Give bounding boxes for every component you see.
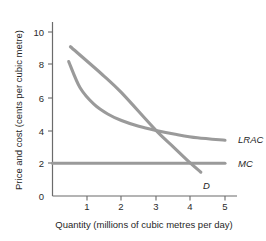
y-tick-label-2: 2 (39, 158, 44, 169)
chart-plot-area: 10 8 6 4 2 0 1 2 3 4 5 Quantity (million… (0, 0, 266, 241)
curve-label-lrac: LRAC (238, 134, 263, 145)
x-tick-label-2: 2 (118, 201, 123, 212)
y-tick-label-8: 8 (39, 59, 44, 70)
curve-lrac (69, 62, 225, 141)
chart-figure: 10 8 6 4 2 0 1 2 3 4 5 Quantity (million… (0, 0, 266, 241)
y-tick-label-10: 10 (33, 27, 44, 38)
curve-label-mc: MC (238, 158, 253, 169)
y-tick-label-6: 6 (39, 93, 44, 104)
x-tick-label-5: 5 (222, 201, 227, 212)
x-tick-label-4: 4 (187, 201, 192, 212)
x-tick-label-3: 3 (153, 201, 158, 212)
y-tick-label-4: 4 (39, 126, 44, 137)
x-tick-label-1: 1 (84, 201, 89, 212)
curve-d (70, 47, 200, 172)
origin-label: 0 (39, 191, 44, 202)
y-axis-title: Price and cost (cents per cubic metre) (13, 30, 24, 190)
x-axis-title: Quantity (millions of cubic metres per d… (55, 219, 232, 230)
curve-label-d: D (203, 180, 210, 191)
